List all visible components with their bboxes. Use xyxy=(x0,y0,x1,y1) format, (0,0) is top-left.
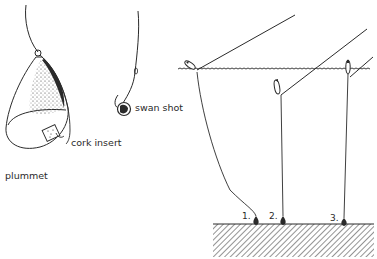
position-label-1: 1. xyxy=(242,212,251,221)
rod-line-2 xyxy=(281,29,367,95)
rod-lines xyxy=(197,15,373,95)
weight-2 xyxy=(280,216,285,225)
water-line xyxy=(178,68,370,69)
cork-insert-label: cork insert xyxy=(71,138,122,148)
drop-line-1 xyxy=(197,72,256,216)
position-label-3: 3. xyxy=(330,214,339,223)
swan-shot-illustration xyxy=(115,11,139,116)
weight-1 xyxy=(253,216,258,225)
drop-line-2 xyxy=(281,95,283,216)
float-2 xyxy=(273,79,281,94)
plummet-label: plummet xyxy=(5,171,48,181)
swan-shot-label: swan shot xyxy=(135,103,183,113)
plummet-line xyxy=(26,5,39,52)
weight-3 xyxy=(341,218,346,226)
rod-line-3 xyxy=(350,57,373,77)
water-surface xyxy=(178,68,370,69)
plummet-illustration xyxy=(6,5,70,148)
drop-lines xyxy=(197,72,348,218)
fishing-diagram xyxy=(0,0,377,259)
swan-shot-line xyxy=(123,11,139,103)
position-label-2: 2. xyxy=(269,212,278,221)
rod-line-1 xyxy=(197,15,295,70)
seabed xyxy=(213,224,374,257)
drop-line-3 xyxy=(344,74,348,218)
float-3 xyxy=(346,60,350,74)
